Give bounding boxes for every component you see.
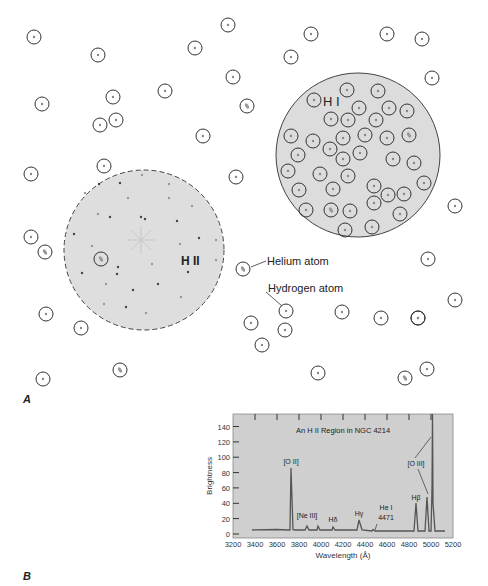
- svg-text:80: 80: [222, 469, 230, 478]
- svg-text:120: 120: [217, 438, 230, 447]
- svg-text:3600: 3600: [269, 540, 286, 549]
- helium-leader-line: [251, 261, 266, 267]
- svg-text:3200: 3200: [225, 540, 242, 549]
- svg-text:4200: 4200: [335, 540, 352, 549]
- svg-text:Hβ: Hβ: [411, 494, 420, 502]
- svg-text:3400: 3400: [247, 540, 264, 549]
- svg-text:4000: 4000: [313, 540, 330, 549]
- svg-text:140: 140: [217, 423, 230, 432]
- hydrogen-atom-label: Hydrogen atom: [268, 282, 343, 294]
- svg-text:4800: 4800: [401, 540, 418, 549]
- h1-region-label: H I: [323, 94, 340, 109]
- starburst-icon: [127, 226, 155, 254]
- y-axis-label: Brightness: [205, 457, 214, 495]
- svg-text:40: 40: [222, 499, 230, 508]
- svg-text:4400: 4400: [357, 540, 374, 549]
- interstellar-gas-diagram: H II H I: [0, 0, 488, 586]
- helium-atom-label: Helium atom: [267, 255, 329, 267]
- panel-a-label: A: [23, 393, 31, 405]
- spectrum-chart: 0 20 40 60 80 100 120 140 3200 3400 3600…: [205, 414, 461, 560]
- svg-text:Hδ: Hδ: [329, 516, 338, 523]
- svg-text:5000: 5000: [423, 540, 440, 549]
- svg-text:4600: 4600: [379, 540, 396, 549]
- helium-atom-callout-icon: [236, 262, 250, 276]
- h2-region-label: H II: [181, 254, 200, 268]
- svg-text:[O III]: [O III]: [407, 460, 424, 468]
- chart-title: An H II Region in NGC 4214: [296, 426, 390, 435]
- svg-text:0: 0: [226, 530, 230, 539]
- h1-region: [276, 73, 440, 237]
- svg-text:Hγ: Hγ: [355, 510, 364, 518]
- svg-text:[Ne III]: [Ne III]: [297, 512, 318, 520]
- h2-region: [64, 170, 224, 330]
- hydrogen-leader-line: [266, 292, 282, 306]
- svg-text:3800: 3800: [291, 540, 308, 549]
- panel-b-label: B: [23, 570, 31, 582]
- svg-text:4471: 4471: [378, 514, 394, 521]
- svg-text:5200: 5200: [445, 540, 462, 549]
- svg-text:100: 100: [217, 453, 230, 462]
- x-axis-label: Wavelength (Å): [316, 551, 371, 560]
- svg-text:He I: He I: [380, 504, 393, 511]
- svg-text:20: 20: [222, 515, 230, 524]
- svg-text:60: 60: [222, 484, 230, 493]
- svg-text:[O II]: [O II]: [283, 458, 298, 466]
